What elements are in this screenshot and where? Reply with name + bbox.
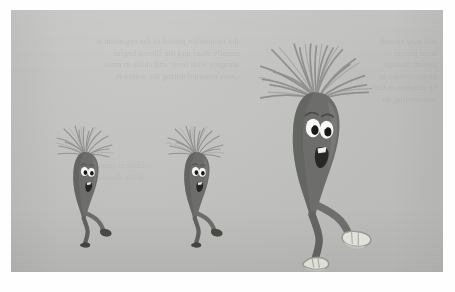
germ-large-right	[259, 44, 396, 272]
germ-small-middle	[166, 126, 240, 250]
germ-pupil-right	[201, 171, 205, 176]
germ-leg-back	[195, 218, 199, 243]
background-bleed-text-left: the incubation period of the organism is…	[25, 36, 239, 82]
germ-legs	[303, 205, 371, 271]
germ-eye-glint-left	[311, 124, 313, 127]
page-canvas: the incubation period of the organism is…	[0, 0, 455, 292]
germ-shoe-back	[191, 242, 201, 247]
germ-leg-back	[84, 218, 88, 243]
germ-eye-glint-right	[324, 126, 326, 129]
germ-shoe-back	[80, 242, 90, 247]
germ-pupil-right	[90, 171, 94, 176]
germ-leg-back	[312, 215, 319, 259]
germ-pupil-left	[84, 170, 88, 175]
germ-small-left	[55, 126, 129, 250]
germ-shoe-front	[100, 229, 112, 237]
germ-pupil-left	[195, 170, 199, 175]
germ-legs	[191, 214, 223, 248]
germ-shoe-back	[303, 257, 329, 269]
germ-hair-large	[259, 44, 372, 100]
germ-legs	[80, 214, 112, 248]
germ-shoe-front	[211, 229, 223, 237]
illustration-panel: the incubation period of the organism is…	[11, 10, 443, 272]
